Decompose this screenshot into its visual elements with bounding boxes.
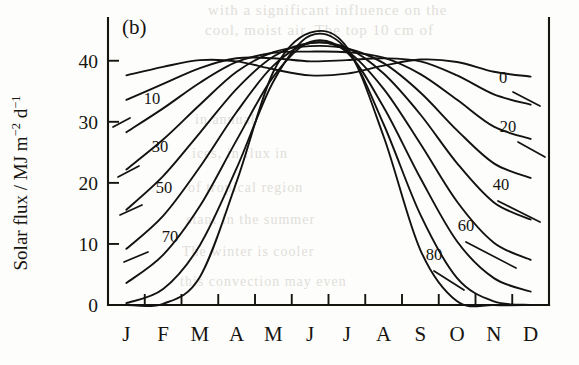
curve-label-80: 80 (426, 245, 443, 264)
curve-label-50: 50 (156, 178, 173, 197)
y-tick-label-0: 0 (88, 295, 98, 316)
x-tick-label-S-8: S (415, 322, 427, 346)
y-tick-label-20: 20 (79, 173, 99, 194)
x-tick-label-A-7: A (376, 322, 392, 346)
curve-label-20: 20 (500, 117, 517, 136)
curve-label-60: 60 (458, 216, 475, 235)
x-tick-label-J-6: J (343, 322, 351, 346)
y-axis-title-mid: d (10, 108, 31, 123)
curve-labels: 01020304050607080 (113, 68, 545, 290)
y-axis-title-sup1: −2 (9, 123, 23, 136)
x-tick-label-J-0: J (122, 322, 130, 346)
curve-label-leader-70 (124, 252, 148, 262)
x-tick-label-M-2: M (191, 322, 210, 346)
curve-label-30: 30 (152, 137, 169, 156)
x-axis-ticks (145, 294, 513, 305)
x-tick-label-O-9: O (450, 322, 465, 346)
panel-label: (b) (122, 15, 147, 39)
y-tick-label-10: 10 (79, 234, 99, 255)
x-tick-label-N-10: N (486, 322, 501, 346)
y-axis-ticks (108, 61, 119, 244)
x-tick-label-F-1: F (157, 322, 169, 346)
figure-solar-flux: with a significant influence on the cool… (0, 0, 579, 365)
curve-label-leader-60 (466, 242, 516, 268)
curve-label-40: 40 (493, 175, 510, 194)
y-axis-title-main: Solar flux / MJ m (10, 136, 31, 270)
curve-label-0: 0 (499, 68, 507, 87)
x-tick-label-J-5: J (306, 322, 314, 346)
curve-latitude-70 (126, 34, 530, 305)
svg-text:Solar flux / MJ m−2 d−1: Solar flux / MJ m−2 d−1 (9, 96, 31, 271)
data-curves (126, 31, 530, 307)
curve-label-leader-20 (518, 142, 545, 157)
y-axis-title: Solar flux / MJ m−2 d−1 (9, 96, 31, 271)
curve-latitude-40 (126, 42, 530, 219)
curve-label-70: 70 (162, 227, 179, 246)
y-axis-title-sup2: −1 (9, 96, 23, 109)
curve-latitude-60 (126, 40, 530, 291)
curve-label-10: 10 (144, 89, 161, 108)
curve-label-leader-40 (498, 201, 540, 222)
solar-flux-chart: Solar flux / MJ m−2 d−1 (b) 010203040 JF… (0, 0, 579, 365)
y-tick-label-40: 40 (79, 51, 99, 72)
x-axis-tick-labels: JFMAMJJASOND (122, 322, 538, 346)
x-tick-label-M-4: M (264, 322, 283, 346)
x-tick-label-D-11: D (523, 322, 538, 346)
y-axis-tick-labels: 010203040 (79, 51, 99, 316)
y-tick-label-30: 30 (79, 112, 99, 133)
x-tick-label-A-3: A (229, 322, 245, 346)
